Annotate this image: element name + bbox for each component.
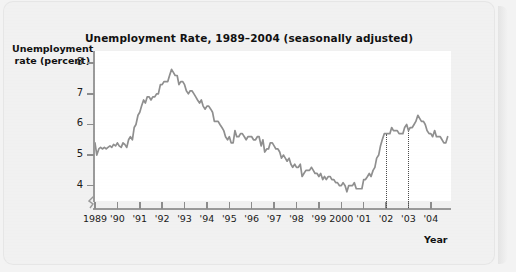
x-tick-label: '99 [312,213,327,224]
x-tick-label: 2000 [329,213,353,224]
screenshot-root: Unemployment Rate, 1989–2004 (seasonally… [0,0,516,272]
x-tick [206,202,208,209]
x-tick-label: '95 [222,213,237,224]
x-tick-label: '90 [110,213,125,224]
x-tick [139,202,141,209]
x-tick [363,202,365,209]
x-tick [184,202,186,209]
y-tick [87,185,94,187]
x-tick [430,202,432,209]
y-tick-label: 5 [57,148,83,159]
card-edge-shadow [498,6,508,264]
x-tick-label: '91 [132,213,147,224]
x-tick [161,202,163,209]
y-tick-label: 6 [57,117,83,128]
y-tick-label: 8 [57,56,83,67]
x-tick [318,202,320,209]
x-tick-label: '03 [401,213,416,224]
figure-card: Unemployment Rate, 1989–2004 (seasonally… [4,2,494,264]
x-tick [251,202,253,209]
x-tick-label: '02 [379,213,394,224]
y-tick [87,62,94,64]
x-tick [117,202,119,209]
x-tick-label: '04 [423,213,438,224]
y-tick [87,93,94,95]
x-tick-label: '93 [177,213,192,224]
x-tick [273,202,275,209]
x-tick-label: '94 [200,213,215,224]
y-axis-label-line1: Unemployment [12,43,93,54]
x-tick-label: '92 [155,213,170,224]
x-tick-label: '97 [267,213,282,224]
y-tick [87,154,94,156]
x-tick [94,202,96,209]
x-tick-label: '98 [289,213,304,224]
y-tick-label: 4 [57,179,83,190]
x-axis-line [93,208,451,210]
x-tick [296,202,298,209]
x-tick-label: '01 [356,213,371,224]
x-tick [229,202,231,209]
series-layer [95,51,451,201]
x-axis-label: Year [424,234,448,245]
unemployment-rate-line [95,69,448,191]
y-tick [87,124,94,126]
x-tick [341,202,343,209]
x-tick-label: '96 [244,213,259,224]
x-tick-label: 1989 [83,213,107,224]
y-tick-label: 7 [57,87,83,98]
